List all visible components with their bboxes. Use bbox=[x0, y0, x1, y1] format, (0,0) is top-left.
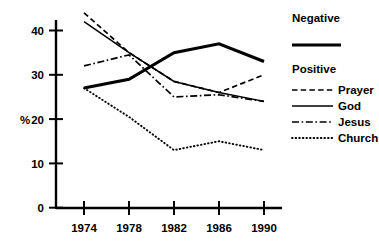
x-tick-label-1978: 1978 bbox=[116, 222, 142, 234]
x-tick-label-1986: 1986 bbox=[206, 222, 232, 234]
line-chart: 40 30 20 10 0 % 1974 1978 1982 1986 1990 bbox=[0, 0, 379, 245]
y-axis-tick-labels: 40 30 20 10 0 bbox=[31, 25, 44, 214]
chart-canvas: 40 30 20 10 0 % 1974 1978 1982 1986 1990 bbox=[0, 0, 379, 245]
y-axis-title: % bbox=[20, 114, 30, 126]
x-axis-tick-labels: 1974 1978 1982 1986 1990 bbox=[71, 222, 277, 234]
y-tick-label-0: 0 bbox=[38, 202, 44, 214]
series-group bbox=[84, 13, 264, 150]
legend-heading-positive: Positive bbox=[292, 63, 336, 75]
y-tick-label-20: 20 bbox=[31, 114, 44, 126]
y-tick-label-40: 40 bbox=[31, 25, 44, 37]
y-tick-label-10: 10 bbox=[31, 158, 44, 170]
y-tick-label-30: 30 bbox=[31, 69, 44, 81]
legend-heading-negative: Negative bbox=[292, 12, 340, 24]
legend-label-jesus: Jesus bbox=[338, 116, 371, 128]
chart-legend: Negative Positive Prayer God Jesus Churc… bbox=[292, 12, 378, 144]
series-line-jesus bbox=[84, 55, 264, 102]
series-line-god bbox=[84, 22, 264, 102]
x-tick-label-1974: 1974 bbox=[71, 222, 97, 234]
x-tick-label-1982: 1982 bbox=[161, 222, 187, 234]
legend-label-prayer: Prayer bbox=[338, 84, 374, 96]
legend-label-church: Church bbox=[338, 132, 378, 144]
x-tick-label-1990: 1990 bbox=[251, 222, 277, 234]
legend-label-god: God bbox=[338, 100, 361, 112]
